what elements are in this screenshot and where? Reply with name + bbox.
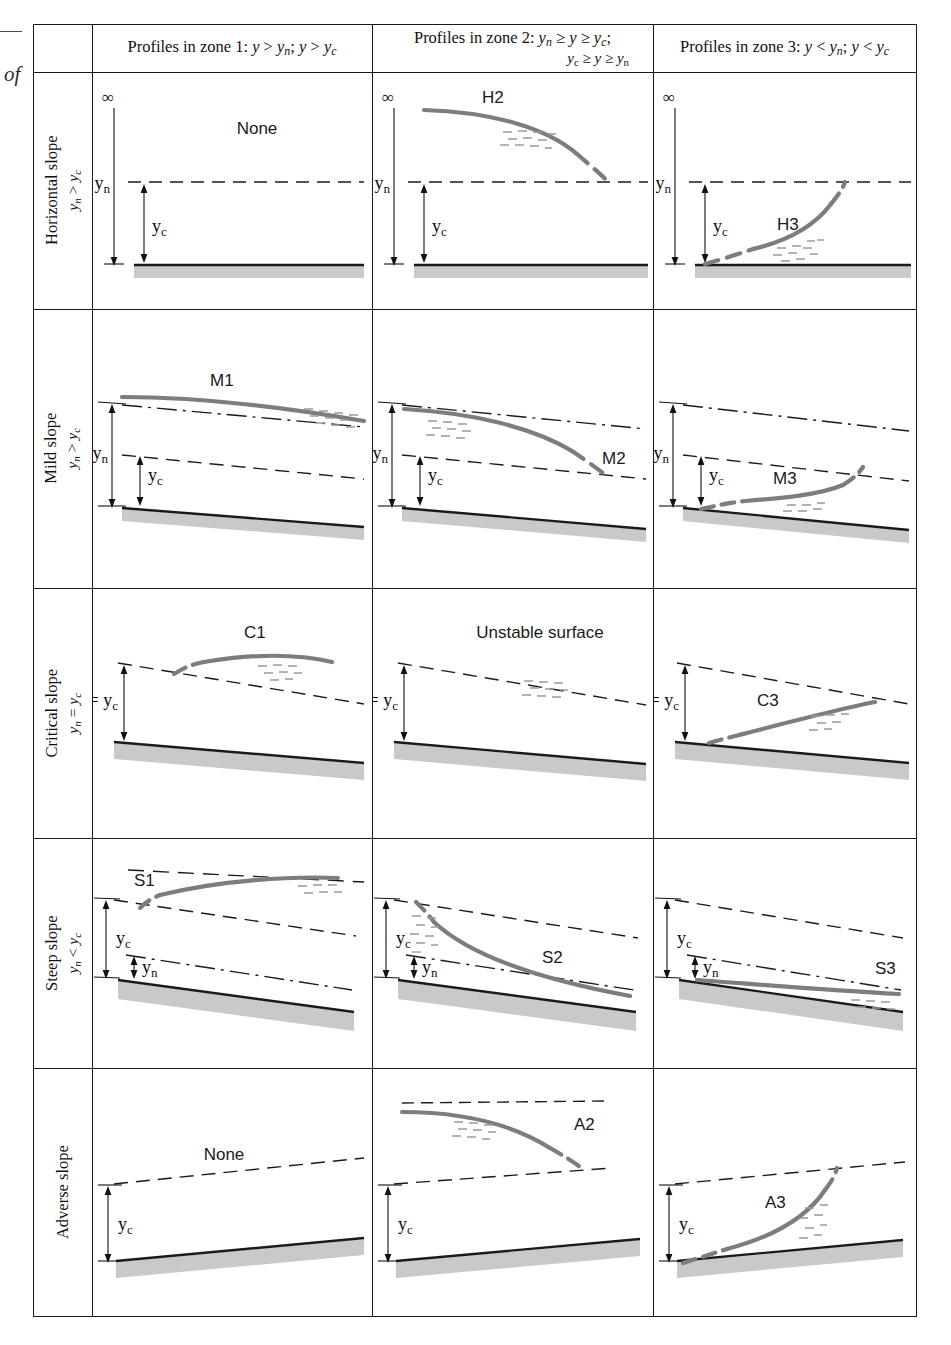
profiles-table: Profiles in zone 1: y > yn; y > yc Profi… [33, 24, 917, 1317]
header-zone-3: Profiles in zone 3: y < yn; y < yc [653, 25, 916, 72]
svg-text:yc: yc [677, 928, 692, 951]
svg-text:yn: yn [93, 443, 109, 466]
row-label-critical-slope: Critical slopeyn = yc [34, 588, 92, 838]
cell-horizontal-zone2: ∞ yn yc H2 [372, 72, 653, 309]
profile-label-m3: M3 [773, 469, 797, 488]
profile-label-a2: A2 [574, 1115, 595, 1134]
cell-steep-zone2: yc yn S2 [372, 838, 653, 1068]
header-zone-1: Profiles in zone 1: y > yn; y > yc [92, 25, 372, 72]
svg-text:yc: yc [152, 216, 167, 239]
svg-text:yc: yc [396, 928, 411, 951]
profile-label-h1: None [237, 119, 278, 138]
cell-critical-zone3: yn = yc C3 [653, 588, 916, 838]
svg-text:yn: yn [95, 173, 111, 196]
cell-horizontal-zone1: ∞ yn yc None [92, 72, 372, 309]
svg-text:yn: yn [654, 443, 670, 466]
margin-rule [0, 31, 22, 32]
svg-text:yc: yc [118, 1214, 133, 1237]
svg-text:yc: yc [709, 465, 724, 488]
svg-text:yn: yn [422, 957, 438, 980]
profile-label-c2: Unstable surface [476, 623, 604, 642]
row-label-adverse-slope: Adverse slope [34, 1068, 92, 1316]
cell-critical-zone1: yn = yc C1 [92, 588, 372, 838]
profile-label-m2: M2 [602, 449, 626, 468]
svg-text:yn = yc: yn = yc [92, 690, 118, 713]
svg-text:yc: yc [713, 216, 728, 239]
cell-adverse-zone1: yc None [92, 1068, 372, 1316]
header-zone-2: Profiles in zone 2: yn ≥ y ≥ yc; yc ≥ y … [372, 25, 653, 72]
svg-text:yc: yc [398, 1214, 413, 1237]
page-margin-bleed: of [0, 0, 34, 1345]
svg-text:yc: yc [679, 1214, 694, 1237]
cell-mild-zone3: yn yc M3 [653, 309, 916, 588]
row-label-steep-slope: Steep slopeyn < yc [34, 838, 92, 1068]
profile-label-a3: A3 [765, 1193, 786, 1212]
profile-label-s3: S3 [875, 959, 896, 978]
svg-text:yn: yn [656, 173, 672, 196]
svg-text:yc: yc [432, 216, 447, 239]
profile-label-h3: H3 [777, 215, 799, 234]
header-corner-blank [34, 25, 92, 72]
svg-text:∞: ∞ [102, 88, 114, 107]
cell-adverse-zone2: yc A2 [372, 1068, 653, 1316]
row-label-horizontal-slope: Horizontal slopeyn > yc [34, 72, 92, 309]
cell-steep-zone1: yc yn S1 [92, 838, 372, 1068]
svg-text:yn: yn [703, 957, 719, 980]
profile-label-h2: H2 [482, 88, 504, 107]
svg-text:yn: yn [373, 443, 389, 466]
svg-text:yn: yn [375, 173, 391, 196]
margin-partial-caption: of [4, 62, 20, 87]
svg-text:yc: yc [116, 928, 131, 951]
profile-label-a1: None [204, 1145, 245, 1164]
profile-label-s2: S2 [542, 948, 563, 967]
cell-mild-zone2: yn yc M2 [372, 309, 653, 588]
cell-critical-zone2: yn = yc Unstable surface [372, 588, 653, 838]
svg-text:yn = yc: yn = yc [372, 690, 398, 713]
profile-label-m1: M1 [210, 371, 234, 390]
svg-text:yc: yc [428, 465, 443, 488]
profile-label-c3: C3 [757, 691, 779, 710]
svg-text:∞: ∞ [382, 88, 394, 107]
profile-label-s1: S1 [134, 871, 155, 890]
svg-text:yn = yc: yn = yc [653, 690, 679, 713]
cell-steep-zone3: yc yn S3 [653, 838, 916, 1068]
cell-mild-zone1: yn yc M1 [92, 309, 372, 588]
svg-text:yc: yc [148, 465, 163, 488]
row-label-mild-slope: Mild slopeyn > yc [34, 309, 92, 588]
profile-label-c1: C1 [244, 623, 266, 642]
svg-text:∞: ∞ [663, 88, 675, 107]
table-header-row: Profiles in zone 1: y > yn; y > yc Profi… [34, 25, 916, 72]
cell-horizontal-zone3: ∞ yn yc H3 [653, 72, 916, 309]
svg-text:yn: yn [142, 957, 158, 980]
cell-adverse-zone3: yc A3 [653, 1068, 916, 1316]
